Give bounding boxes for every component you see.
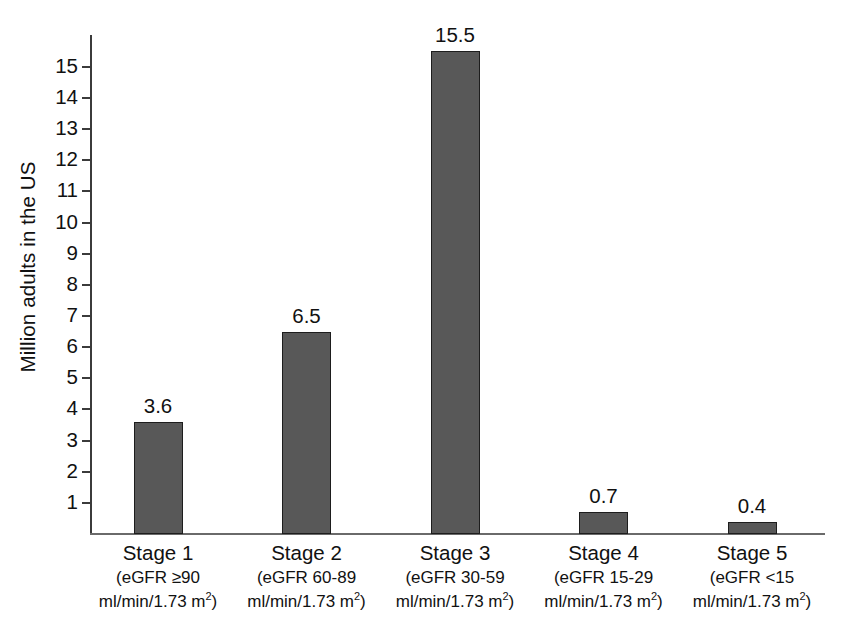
bar-value-label-5: 0.4	[692, 495, 812, 516]
bar-4[interactable]	[579, 512, 628, 534]
y-axis-tick-mark	[82, 284, 91, 286]
category-name-5: Stage 5	[672, 540, 832, 566]
category-label-group-4: Stage 4(eGFR 15-29ml/min/1.73 m2)	[524, 540, 684, 614]
category-name-2: Stage 2	[227, 540, 387, 566]
category-egfr-units-4: ml/min/1.73 m2)	[524, 590, 684, 614]
bar-value-label-1: 3.6	[98, 395, 218, 416]
category-label-group-5: Stage 5(eGFR <15ml/min/1.73 m2)	[672, 540, 832, 614]
category-egfr-units-2: ml/min/1.73 m2)	[227, 590, 387, 614]
y-axis-tick-mark	[82, 66, 91, 68]
category-egfr-range-1: (eGFR ≥90	[78, 566, 238, 590]
category-egfr-range-5: (eGFR <15	[672, 566, 832, 590]
bar-1[interactable]	[134, 422, 183, 534]
category-egfr-units-3: ml/min/1.73 m2)	[375, 590, 535, 614]
y-axis-tick-mark	[82, 315, 91, 317]
bar-5[interactable]	[728, 522, 777, 534]
category-name-4: Stage 4	[524, 540, 684, 566]
category-name-3: Stage 3	[375, 540, 535, 566]
y-axis-tick-mark	[82, 440, 91, 442]
y-axis-tick-mark	[82, 346, 91, 348]
bar-chart-figure: Million adults in the US 151413121110987…	[0, 0, 842, 641]
y-axis-tick-mark	[82, 408, 91, 410]
category-name-1: Stage 1	[78, 540, 238, 566]
y-axis-tick-mark	[82, 502, 91, 504]
category-egfr-units-5: ml/min/1.73 m2)	[672, 590, 832, 614]
y-axis-tick-mark	[82, 190, 91, 192]
plot-area: 3.66.515.50.70.4	[0, 0, 842, 534]
y-axis-tick-mark	[82, 159, 91, 161]
category-egfr-range-2: (eGFR 60-89	[227, 566, 387, 590]
y-axis-tick-mark	[82, 128, 91, 130]
bar-3[interactable]	[431, 51, 480, 534]
category-egfr-range-4: (eGFR 15-29	[524, 566, 684, 590]
bar-value-label-3: 15.5	[395, 24, 515, 45]
category-egfr-units-1: ml/min/1.73 m2)	[78, 590, 238, 614]
y-axis-tick-mark	[82, 253, 91, 255]
bar-value-label-2: 6.5	[247, 305, 367, 326]
category-egfr-range-3: (eGFR 30-59	[375, 566, 535, 590]
y-axis-tick-mark	[82, 471, 91, 473]
y-axis-tick-mark	[82, 97, 91, 99]
bar-value-label-4: 0.7	[544, 485, 664, 506]
category-label-group-3: Stage 3(eGFR 30-59ml/min/1.73 m2)	[375, 540, 535, 614]
bar-2[interactable]	[282, 332, 331, 534]
category-label-group-2: Stage 2(eGFR 60-89ml/min/1.73 m2)	[227, 540, 387, 614]
category-label-group-1: Stage 1(eGFR ≥90ml/min/1.73 m2)	[78, 540, 238, 614]
y-axis-tick-mark	[82, 377, 91, 379]
y-axis-tick-mark	[82, 222, 91, 224]
x-axis-category-labels: Stage 1(eGFR ≥90ml/min/1.73 m2)Stage 2(e…	[0, 540, 842, 641]
